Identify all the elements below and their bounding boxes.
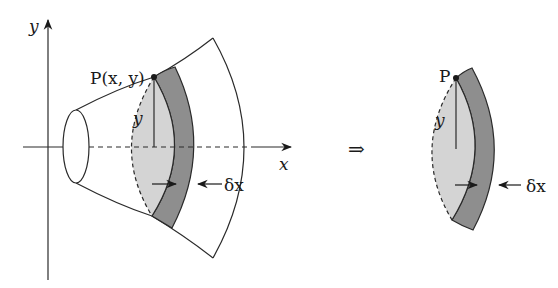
slice-radius-label: y xyxy=(434,110,445,130)
slice-point-p-marker xyxy=(453,75,459,81)
radius-label: y xyxy=(132,108,143,128)
implies-arrow: ⇒ xyxy=(348,137,365,161)
slice-thickness-label: δx xyxy=(526,176,546,196)
x-axis-label: x xyxy=(279,154,289,174)
slice-point-p-label: P xyxy=(439,66,450,86)
right-panel: P y δx xyxy=(432,66,546,230)
solid-small-end-ellipse xyxy=(63,110,89,183)
point-p-marker xyxy=(151,74,157,80)
diagram-canvas: y x P(x, y) y δx ⇒ P y δx xyxy=(0,0,558,288)
solid-outer-end-arc xyxy=(213,38,244,258)
thickness-label: δx xyxy=(224,175,244,195)
left-panel: y x P(x, y) y δx xyxy=(23,16,291,280)
point-p-label: P(x, y) xyxy=(90,68,145,88)
y-axis-label: y xyxy=(28,16,39,36)
